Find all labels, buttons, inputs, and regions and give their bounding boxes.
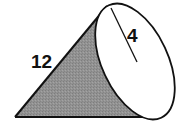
radius-label: 4 xyxy=(127,25,138,46)
slant-height-label: 12 xyxy=(31,51,52,72)
cone-diagram: 4 12 xyxy=(0,0,177,130)
